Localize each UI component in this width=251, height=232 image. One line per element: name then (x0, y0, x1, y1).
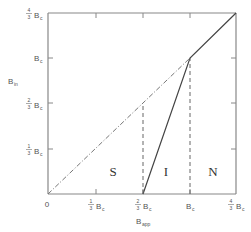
y-tick-label-1: B c (34, 54, 43, 64)
svg-text:1: 1 (28, 143, 31, 149)
x-tick-label-0: 0 (45, 200, 50, 209)
y-tick-label-2-3: 2 3 B c (26, 97, 43, 111)
region-label-n: N (208, 164, 218, 179)
y-tick-labels: 4 3 B c B c 2 3 B c 1 3 B c (26, 7, 43, 157)
svg-text:3: 3 (230, 205, 233, 211)
plot-area: S I N (48, 13, 236, 194)
svg-text:2: 2 (137, 198, 140, 204)
svg-text:B: B (186, 202, 191, 211)
svg-text:B: B (34, 54, 39, 63)
svg-text:c: c (40, 58, 43, 64)
x-tick-label-1: B c (186, 202, 195, 212)
svg-text:app: app (142, 221, 151, 227)
region-label-i: I (164, 164, 168, 179)
y-tick-label-4-3: 4 3 B c (26, 7, 43, 21)
x-tick-label-1-3: 1 3 B c (88, 198, 105, 212)
x-axis-title: B app (136, 217, 151, 227)
solid-magnetization-line (143, 13, 236, 194)
svg-text:B: B (34, 101, 39, 110)
x-tick-labels: 0 1 3 B c 2 3 B c B c 4 3 B c (45, 198, 245, 212)
svg-text:3: 3 (137, 205, 140, 211)
y-tick-label-1-3: 1 3 B c (26, 143, 43, 157)
svg-text:B: B (136, 217, 141, 226)
svg-text:4: 4 (230, 198, 233, 204)
svg-text:B: B (34, 11, 39, 20)
svg-text:B: B (236, 202, 241, 211)
svg-text:2: 2 (28, 97, 31, 103)
x-tick-label-2-3: 2 3 B c (135, 198, 152, 212)
svg-text:c: c (40, 151, 43, 157)
svg-text:3: 3 (28, 14, 31, 20)
svg-text:c: c (192, 206, 195, 212)
svg-text:c: c (40, 105, 43, 111)
svg-text:c: c (40, 15, 43, 21)
svg-text:B: B (34, 147, 39, 156)
y-axis-title: B in (8, 77, 18, 87)
dashdot-diagonal-line (48, 58, 190, 194)
svg-text:c: c (102, 206, 105, 212)
svg-text:c: c (149, 206, 152, 212)
phase-diagram-chart: S I N 4 3 B c B c 2 3 B c 1 3 (0, 0, 251, 232)
x-tick-label-4-3: 4 3 B c (228, 198, 245, 212)
svg-text:3: 3 (28, 104, 31, 110)
svg-text:B: B (8, 77, 13, 86)
svg-text:B: B (96, 202, 101, 211)
svg-text:c: c (242, 206, 245, 212)
svg-text:in: in (14, 81, 18, 87)
svg-text:1: 1 (90, 198, 93, 204)
svg-text:3: 3 (90, 205, 93, 211)
svg-text:3: 3 (28, 150, 31, 156)
region-label-s: S (109, 164, 116, 179)
svg-text:4: 4 (28, 7, 31, 13)
svg-text:B: B (143, 202, 148, 211)
